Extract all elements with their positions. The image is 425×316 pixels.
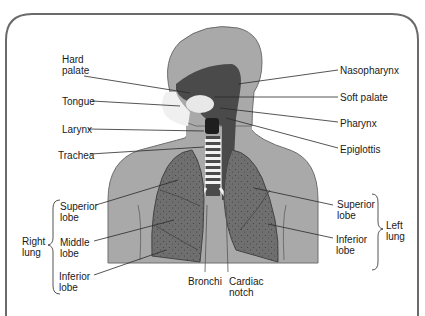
label-right-middle-lobe: Middle lobe <box>60 237 89 259</box>
label-left-inferior-lobe: Inferior lobe <box>336 234 367 256</box>
larynx-shape <box>205 118 219 134</box>
label-bronchi: Bronchi <box>188 276 222 287</box>
label-nasopharynx: Nasopharynx <box>340 65 399 76</box>
label-right-superior-lobe: Superior lobe <box>60 201 98 223</box>
label-larynx: Larynx <box>62 124 92 135</box>
label-right-inferior-lobe: Inferior lobe <box>59 271 90 293</box>
label-right-lung: Right lung <box>22 236 45 258</box>
label-hard-palate: Hard palate <box>62 54 89 76</box>
label-trachea: Trachea <box>58 150 94 161</box>
label-epiglottis: Epiglottis <box>340 144 381 155</box>
label-pharynx: Pharynx <box>340 118 377 129</box>
label-cardiac-notch: Cardiac notch <box>229 276 263 298</box>
label-left-lung: Left lung <box>386 220 405 242</box>
respiratory-diagram: Hard palate Tongue Larynx Trachea Nasoph… <box>0 0 425 316</box>
label-left-superior-lobe: Superior lobe <box>337 199 375 221</box>
label-tongue: Tongue <box>62 96 95 107</box>
label-soft-palate: Soft palate <box>340 92 388 103</box>
tongue-shape <box>186 95 214 113</box>
